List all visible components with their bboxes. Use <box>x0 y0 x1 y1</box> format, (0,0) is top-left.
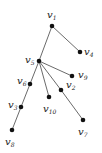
node-v3 <box>19 105 24 110</box>
node-v6 <box>28 82 33 87</box>
tree-graph: v1v4v5v9v6v2v10v3v7v8 <box>0 0 102 153</box>
node-v4 <box>78 50 83 55</box>
edge-v1-v4 <box>52 26 80 52</box>
tree-diagram: v1v4v5v9v6v2v10v3v7v8 <box>0 0 102 153</box>
node-v5 <box>37 59 42 64</box>
edge-v5-v2 <box>39 61 61 90</box>
node-v2 <box>59 88 64 93</box>
label-v3: v3 <box>8 99 18 111</box>
edge-v6-v3 <box>21 84 30 107</box>
label-v4: v4 <box>84 46 94 58</box>
label-v10: v10 <box>43 103 56 115</box>
node-v8 <box>10 128 15 133</box>
label-v6: v6 <box>17 75 27 87</box>
label-v2: v2 <box>66 79 76 91</box>
edge-v5-v10 <box>39 61 49 97</box>
edge-v5-v9 <box>39 61 72 76</box>
label-v9: v9 <box>78 69 88 81</box>
node-v7 <box>81 118 86 123</box>
node-v10 <box>47 95 52 100</box>
label-v1: v1 <box>47 9 56 21</box>
label-v5: v5 <box>25 54 35 66</box>
node-v9 <box>70 74 75 79</box>
label-v7: v7 <box>78 126 88 138</box>
edge-v1-v5 <box>39 26 52 61</box>
node-v1 <box>50 24 55 29</box>
labels-group: v1v4v5v9v6v2v10v3v7v8 <box>5 9 94 148</box>
label-v8: v8 <box>5 136 15 148</box>
edge-v2-v7 <box>61 90 83 120</box>
